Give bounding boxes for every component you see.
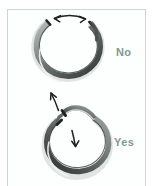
ring-no <box>35 21 101 83</box>
figure-root: No Yes <box>0 0 158 186</box>
arrow-spread-head-left <box>55 16 61 22</box>
label-yes: Yes <box>114 136 134 148</box>
ring-no-inner-line <box>39 25 97 73</box>
arrow-twist-up <box>51 93 59 111</box>
arrow-twist-down <box>72 131 79 147</box>
label-no: No <box>116 46 131 58</box>
arrow-spread-head-right <box>80 16 86 22</box>
arrow-spread-double-headed <box>55 16 86 23</box>
jump-ring-illustration <box>0 0 158 186</box>
ring-no-body <box>36 23 100 76</box>
ring-yes-end-far-body <box>64 108 95 119</box>
